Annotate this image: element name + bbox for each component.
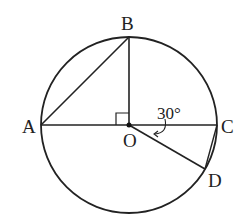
right-angle-marker	[116, 113, 129, 125]
center-point-o	[127, 123, 132, 128]
radius-od	[129, 125, 205, 169]
chord-cd	[205, 125, 217, 169]
label-b: B	[121, 13, 134, 34]
angle-label: 30°	[157, 104, 181, 123]
label-d: D	[208, 170, 222, 191]
geometry-diagram: B A C O D 30°	[0, 0, 248, 224]
chord-ab	[41, 37, 129, 125]
label-o: O	[123, 130, 137, 151]
label-c: C	[221, 116, 234, 137]
label-a: A	[22, 116, 36, 137]
